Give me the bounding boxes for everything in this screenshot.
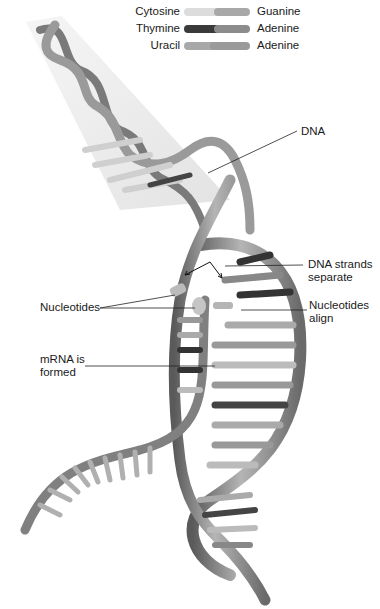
legend-label-adenine-2: Adenine [257,39,299,52]
label-nucleotides: Nucleotides [40,301,100,314]
legend-label-guanine: Guanine [257,5,300,18]
label-nucleotides-align: Nucleotides align [309,299,369,325]
base-pairs-left [180,320,200,390]
label-dna: DNA [301,125,325,138]
legend-bars [184,8,250,50]
label-nucleotides-align-line1: Nucleotides [309,299,369,312]
label-dna-strands-line2: separate [308,271,373,284]
label-dna-strands-separate: DNA strands separate [308,258,373,284]
legend-label-adenine: Adenine [257,22,299,35]
legend-label-uracil: Uracil [100,39,180,52]
label-dna-strands-line1: DNA strands [308,258,373,271]
label-mrna-formed: mRNA is formed [40,353,85,379]
label-nucleotides-align-line2: align [309,312,369,325]
label-mrna-line1: mRNA is [40,353,85,366]
legend-label-thymine: Thymine [100,22,180,35]
label-mrna-line2: formed [40,366,85,379]
legend-label-cytosine: Cytosine [100,5,180,18]
transcription-diagram: Cytosine Guanine Thymine Adenine Uracil … [0,0,380,609]
